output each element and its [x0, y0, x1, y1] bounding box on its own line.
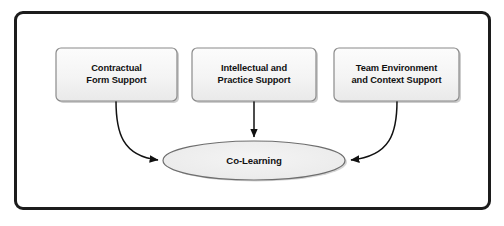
- connector-team-environment-to-co-learning: [351, 101, 397, 160]
- node-intellectual-practice-support-line1: Intellectual and: [221, 63, 287, 73]
- figure-canvas: Contractual Form Support Intellectual an…: [0, 0, 504, 226]
- diagram-svg: Contractual Form Support Intellectual an…: [0, 0, 504, 226]
- node-co-learning[interactable]: Co-Learning: [163, 141, 345, 180]
- node-team-environment-context-support[interactable]: Team Environment and Context Support: [334, 48, 459, 101]
- node-intellectual-practice-support[interactable]: Intellectual and Practice Support: [192, 48, 316, 101]
- node-contractual-form-support-line2: Form Support: [86, 75, 146, 85]
- node-intellectual-practice-support-line2: Practice Support: [218, 75, 291, 85]
- node-team-environment-context-support-line2: and Context Support: [351, 75, 441, 85]
- node-co-learning-label: Co-Learning: [226, 155, 282, 166]
- node-team-environment-context-support-line1: Team Environment: [356, 63, 437, 73]
- connector-contractual-to-co-learning: [116, 101, 158, 160]
- node-contractual-form-support-line1: Contractual: [91, 63, 142, 73]
- node-contractual-form-support[interactable]: Contractual Form Support: [56, 48, 177, 101]
